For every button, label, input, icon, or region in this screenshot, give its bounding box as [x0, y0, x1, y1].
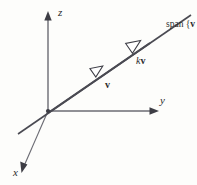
- span-diagram-figure: z y x v kv span {v: [0, 0, 197, 185]
- x-axis-label: x: [13, 167, 18, 178]
- span-set-label: span {v: [166, 20, 195, 30]
- span-vector-symbol: v: [190, 19, 195, 29]
- span-line: [18, 15, 191, 134]
- y-axis: [48, 107, 159, 114]
- z-axis-label: z: [58, 7, 62, 18]
- vector-kv-symbol: v: [140, 55, 145, 66]
- vector-kv-label: kv: [136, 56, 145, 66]
- y-axis-label: y: [160, 95, 165, 106]
- origin-point: [46, 109, 50, 113]
- x-axis: [20, 111, 48, 173]
- z-axis: [44, 11, 51, 111]
- vector-v-label: v: [105, 80, 110, 90]
- vector-kv-arrowhead: [126, 36, 144, 54]
- span-set-text: span {: [166, 19, 190, 29]
